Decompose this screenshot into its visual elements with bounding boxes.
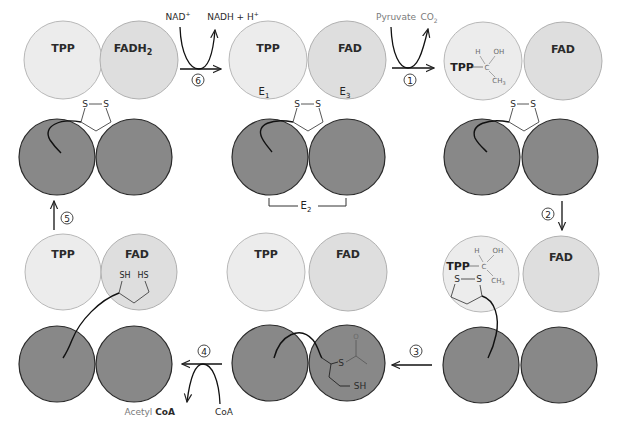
e3-subunit — [309, 233, 387, 311]
nadh-label: NADH + H+ — [207, 10, 259, 22]
step6-number: 6 — [195, 76, 201, 86]
step5-number: 5 — [64, 214, 70, 224]
co2-label: CO2 — [420, 12, 437, 24]
e1-subunit — [25, 234, 101, 310]
step1-number: 1 — [407, 76, 413, 86]
svg-text:S: S — [530, 99, 536, 109]
svg-text:OH: OH — [494, 48, 505, 56]
acetyl-coa-label: Acetyl CoA — [125, 407, 176, 417]
e2-subunit-right — [309, 119, 385, 195]
step5-reaction: 5 — [54, 201, 73, 230]
svg-text:S: S — [454, 274, 460, 284]
lipoamide-disulfide: S S — [509, 99, 539, 131]
svg-text:S: S — [476, 274, 482, 284]
svg-text:SH: SH — [354, 381, 366, 391]
e3-subunit — [523, 236, 599, 312]
step3-reaction: 3 — [392, 345, 432, 365]
tpp-label: TPP — [51, 42, 75, 55]
e2-subunit-right — [96, 326, 172, 402]
fad-label: FAD — [549, 251, 573, 264]
e1-subunit — [24, 21, 102, 99]
fadh2-label: FADH2 — [114, 42, 153, 57]
tpp-label: TPP — [254, 248, 278, 261]
e2-bracket: E2 — [269, 198, 346, 214]
fad-label: FAD — [336, 248, 360, 261]
pdh-mechanism-diagram: TPP FADH2 S S NAD+ NADH + H+ 6 TPP FAD E… — [0, 0, 621, 432]
e3-subunit — [524, 22, 602, 100]
nad-label: NAD+ — [166, 10, 191, 22]
lipoamide-disulfide: S S — [81, 99, 111, 131]
panel-oxidized-start: TPP FAD E1 E3 S S E2 — [229, 21, 386, 214]
svg-text:H: H — [475, 48, 480, 56]
fad-label: FAD — [338, 42, 362, 55]
svg-text:C: C — [482, 263, 487, 271]
e2-subunit-right — [309, 325, 385, 401]
e2-subunit-left — [232, 325, 308, 401]
svg-text:C: C — [485, 64, 490, 72]
e2-subunit-right — [521, 327, 597, 403]
e2-subunit-left — [443, 327, 519, 403]
e2-subunit-left — [19, 119, 95, 195]
svg-text:S: S — [103, 99, 109, 109]
svg-text:H: H — [474, 247, 479, 255]
e1-subunit — [229, 21, 307, 99]
svg-text:S: S — [315, 99, 321, 109]
fad-label: FAD — [125, 248, 149, 261]
svg-text:OH: OH — [493, 247, 504, 255]
pyruvate-label: Pyruvate — [376, 12, 417, 22]
step2-number: 2 — [545, 210, 551, 220]
e2-subunit-right — [96, 119, 172, 195]
e2-subunit-left — [19, 326, 95, 402]
panel-fadh2: TPP FADH2 S S — [19, 21, 178, 195]
svg-text:HS: HS — [137, 271, 148, 280]
e3-subunit — [100, 21, 178, 99]
e3-subunit — [308, 21, 386, 99]
step2-reaction: 2 — [542, 201, 562, 230]
e2-subunit-left — [232, 119, 308, 195]
svg-text:S: S — [338, 358, 344, 368]
svg-text:S: S — [294, 99, 300, 109]
e1-subunit — [227, 233, 305, 311]
step4-number: 4 — [201, 347, 207, 357]
e2-label: E2 — [301, 200, 312, 214]
step3-number: 3 — [413, 347, 419, 357]
panel-lipoamide-attack: FAD TPP C H OH CH3 S S — [443, 236, 599, 403]
svg-text:O: O — [353, 333, 359, 341]
panel-acetyl-lipoamide: TPP FAD S O SH — [227, 233, 387, 401]
svg-text:TPP: TPP — [446, 260, 470, 273]
svg-text:S: S — [82, 99, 88, 109]
panel-hydroxyethyl-tpp: FAD TPP C H OH CH3 S S — [444, 22, 602, 195]
panel-reduced-lipoamide: TPP FAD SH HS — [19, 234, 177, 402]
e2-subunit-right — [522, 119, 598, 195]
lipoamide-disulfide: S S — [293, 99, 323, 131]
tpp-label: TPP — [256, 42, 280, 55]
tpp-label: TPP — [51, 248, 75, 261]
e2-subunit-left — [444, 119, 520, 195]
svg-text:TPP: TPP — [450, 61, 474, 74]
svg-text:S: S — [510, 99, 516, 109]
fad-label: FAD — [551, 43, 575, 56]
step1-reaction: Pyruvate CO2 1 — [376, 12, 438, 86]
coa-label: CoA — [215, 407, 234, 417]
svg-text:SH: SH — [119, 271, 130, 280]
